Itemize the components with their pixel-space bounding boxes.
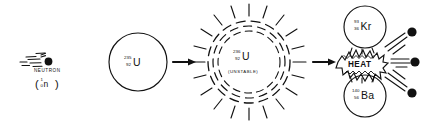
released-neutron-2 — [391, 57, 420, 67]
released-neutron-2-trail — [391, 59, 410, 67]
uranium-235-group: 235 92 U — [109, 33, 167, 91]
krypton-93-mass-number: 93 — [354, 19, 360, 24]
barium-140-atomic-number: 56 — [354, 95, 360, 100]
neutron-trail-accent — [41, 53, 46, 57]
released-neutron-2-particle — [410, 57, 419, 66]
released-neutron-1 — [385, 27, 417, 54]
unstable-inner-ring — [218, 31, 280, 93]
incoming-neutron-group: NEUTRON ( 1 0 n ) — [20, 53, 61, 90]
neutron-caption: NEUTRON — [34, 68, 61, 73]
uranium-235-atomic-number: 92 — [126, 62, 132, 67]
released-neutron-3-particle — [407, 88, 416, 97]
uranium-236-atomic-number: 92 — [235, 56, 241, 61]
neutron-open-paren: ( — [35, 78, 39, 90]
unstable-outer-ring — [208, 21, 290, 103]
uranium-236-mass-number: 236 — [233, 49, 241, 54]
uranium-235-mass-number: 235 — [124, 55, 132, 60]
released-neutron-3-trail — [385, 70, 407, 91]
fission-products-group: 93 36 Kr 140 56 Ba HEAT — [336, 6, 420, 117]
uranium-236-unstable-group: 236 92 U (UNSTABLE) — [192, 4, 306, 120]
krypton-93-symbol: Kr — [361, 20, 372, 32]
arrow-two-head — [328, 58, 336, 65]
arrow-two — [313, 58, 336, 65]
barium-140-mass-number: 140 — [352, 88, 360, 93]
released-neutron-1-particle — [407, 27, 416, 36]
krypton-93-atomic-number: 36 — [354, 26, 360, 31]
uranium-235-symbol: U — [133, 56, 141, 68]
krypton-93-group: 93 36 Kr — [344, 6, 386, 48]
released-neutron-3 — [385, 70, 417, 98]
uranium-236-state-label: (UNSTABLE) — [228, 69, 258, 74]
neutron-close-paren: ) — [55, 78, 59, 90]
heat-label: HEAT — [348, 60, 371, 69]
fission-diagram-canvas: NEUTRON ( 1 0 n ) 235 92 U — [0, 0, 427, 123]
released-neutron-1-trail — [385, 33, 407, 54]
barium-140-symbol: Ba — [361, 89, 374, 101]
unstable-middle-ring — [213, 26, 285, 98]
heat-burst-group: HEAT — [336, 50, 388, 81]
neutron-particle-icon — [45, 58, 53, 66]
neutron-notation: ( 1 0 n ) — [35, 77, 59, 91]
neutron-symbol: n — [44, 79, 49, 89]
fission-diagram: NEUTRON ( 1 0 n ) 235 92 U — [0, 0, 427, 123]
uranium-236-symbol: U — [242, 50, 250, 62]
